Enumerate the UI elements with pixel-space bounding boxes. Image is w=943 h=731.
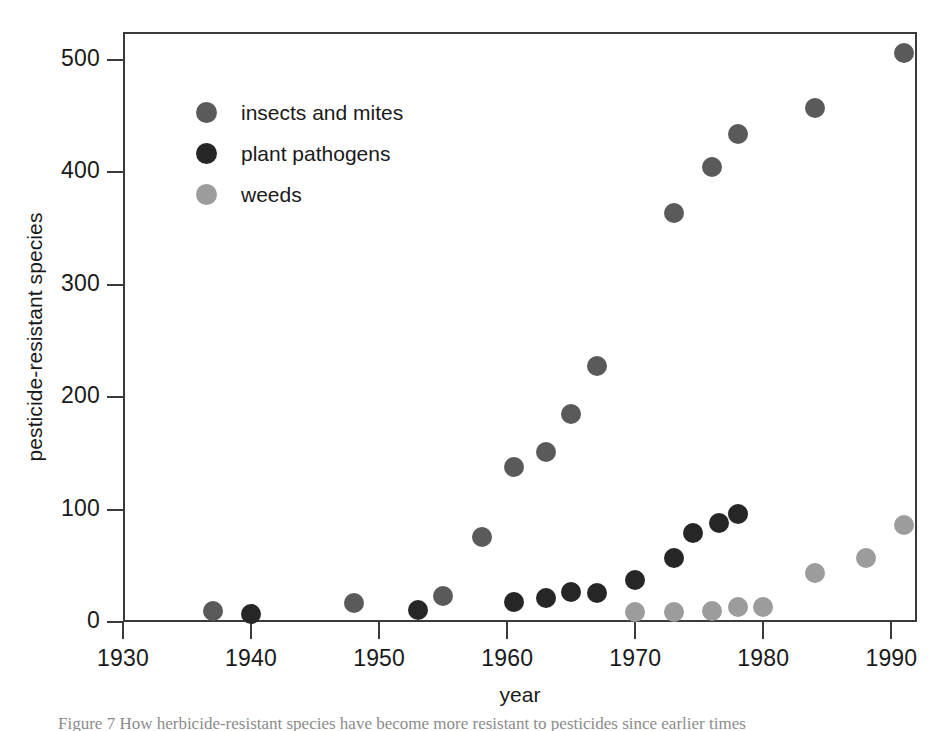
x-axis-tick-label: 1940 xyxy=(191,645,311,672)
x-axis-tick-label: 1980 xyxy=(703,645,823,672)
x-axis-tick-mark xyxy=(890,622,892,639)
y-axis-title: pesticide-resistant species xyxy=(23,127,47,547)
figure-caption: Figure 7 How herbicide-resistant species… xyxy=(58,714,918,731)
x-axis-tick-mark xyxy=(506,622,508,639)
legend-entry-insects-and-mites: insects and mites xyxy=(196,92,526,133)
legend-swatch-icon-weeds xyxy=(196,184,217,205)
legend-swatch-icon-insects xyxy=(196,102,217,123)
x-axis-tick-mark xyxy=(378,622,380,639)
x-axis-title: year xyxy=(123,683,917,707)
x-axis-tick-mark xyxy=(762,622,764,639)
x-axis-tick-mark xyxy=(250,622,252,639)
legend-label-weeds: weeds xyxy=(241,183,302,207)
x-axis-tick-label: 1960 xyxy=(447,645,567,672)
figure-container: pesticide-resistant species year insects… xyxy=(0,0,943,731)
chart-legend: insects and mites plant pathogens weeds xyxy=(196,92,526,215)
legend-swatch-icon-pathogens xyxy=(196,143,217,164)
x-axis-tick-label: 1950 xyxy=(319,645,439,672)
y-axis xyxy=(0,0,123,731)
legend-label-pathogens: plant pathogens xyxy=(241,142,390,166)
legend-entry-weeds: weeds xyxy=(196,174,526,215)
x-axis-tick-mark xyxy=(634,622,636,639)
x-axis-tick-label: 1970 xyxy=(575,645,695,672)
legend-entry-plant-pathogens: plant pathogens xyxy=(196,133,526,174)
legend-label-insects: insects and mites xyxy=(241,101,403,125)
x-axis-tick-label: 1990 xyxy=(831,645,943,672)
